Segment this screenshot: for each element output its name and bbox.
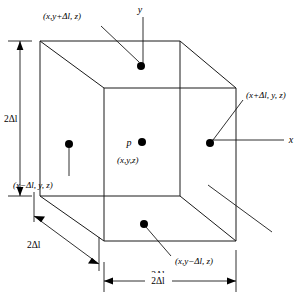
bottom-face-dot bbox=[140, 220, 148, 228]
dimension-depth: 2Δl bbox=[27, 192, 99, 271]
height-arrow-down bbox=[17, 187, 24, 196]
width-dimension-label-front: 2Δl bbox=[151, 276, 165, 286]
point-bottom: (x,y−Δl, z) bbox=[140, 220, 213, 266]
leader-line-top bbox=[101, 26, 139, 62]
center-point-coordinate-label: (x,y,z) bbox=[117, 155, 139, 165]
height-dimension-label: 2Δl bbox=[4, 114, 18, 124]
dimension-width: 2Δl bbox=[104, 250, 236, 292]
leader-line-right bbox=[213, 100, 243, 140]
depth-arrow-front bbox=[88, 258, 99, 264]
label-top-neighbor: (x,y+Δl, z) bbox=[43, 11, 81, 21]
z-axis bbox=[208, 185, 272, 232]
depth-arrow-back bbox=[34, 216, 45, 222]
cube-diagram: y x (x,y+Δl, z) (x+Δl, y, z) (x−Δl bbox=[0, 0, 307, 297]
label-bottom-neighbor: (x,y−Δl, z) bbox=[175, 256, 213, 266]
depth-edge-top-right bbox=[180, 41, 236, 88]
width-arrow-right bbox=[227, 278, 236, 285]
point-center: p (x,y,z) bbox=[117, 137, 146, 165]
right-face-dot bbox=[206, 139, 214, 147]
y-axis-label: y bbox=[137, 4, 143, 15]
width-arrow-left bbox=[104, 278, 113, 285]
y-axis: y bbox=[137, 4, 143, 64]
point-right: (x+Δl, y, z) bbox=[206, 90, 286, 147]
dimension-height: 2Δl bbox=[4, 41, 32, 196]
depth-edge-bottom-left bbox=[40, 196, 104, 241]
depth-dimension-label: 2Δl bbox=[27, 240, 41, 250]
x-axis-label: x bbox=[288, 134, 294, 145]
left-face-dot bbox=[65, 140, 73, 148]
depth-edge-top-left bbox=[40, 41, 104, 88]
cube-back-face bbox=[40, 41, 180, 196]
top-face-dot bbox=[137, 62, 145, 70]
depth-dimension-line bbox=[34, 216, 99, 264]
figure-container: y x (x,y+Δl, z) (x+Δl, y, z) (x−Δl bbox=[0, 0, 307, 297]
center-dot bbox=[138, 138, 146, 146]
x-axis: x bbox=[212, 134, 294, 145]
height-arrow-up bbox=[17, 41, 24, 50]
point-left: (x−Δl, y, z) bbox=[13, 140, 73, 190]
label-right-neighbor: (x+Δl, y, z) bbox=[246, 90, 286, 100]
z-axis-line bbox=[208, 185, 272, 232]
depth-edge-bottom-right bbox=[180, 196, 236, 241]
center-point-marker-label: p bbox=[126, 137, 132, 148]
back-face-outline bbox=[40, 41, 180, 196]
